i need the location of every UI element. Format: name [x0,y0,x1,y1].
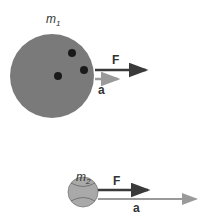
mass-label-2: m2 [76,170,90,186]
diagram-canvas [0,0,217,220]
accel-label-2: a [133,201,140,215]
mass-label-1: m1 [46,12,60,28]
bowling-ball [10,34,94,118]
force-label-1: F [112,53,119,67]
accel-label-1: a [98,83,105,97]
force-label-2: F [113,174,120,188]
